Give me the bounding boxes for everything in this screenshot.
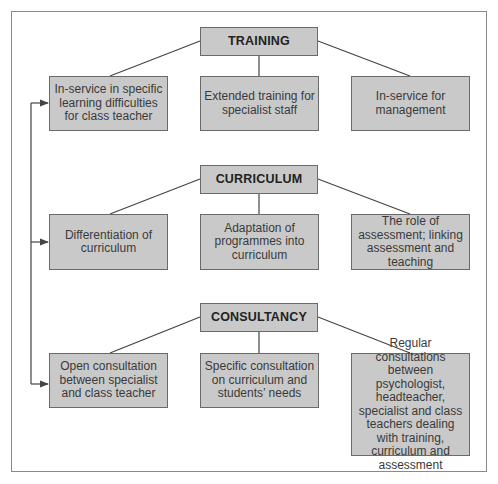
item-label: Extended training for specialist staff bbox=[204, 90, 315, 117]
item-label: Adaptation of programmes into curriculum bbox=[204, 222, 315, 263]
curriculum-item-assessment: The role of assessment; linking assessme… bbox=[351, 214, 470, 270]
item-label: In-service for management bbox=[355, 90, 466, 117]
item-label: Specific consultation on curriculum and … bbox=[204, 360, 315, 401]
consultancy-header-label: CONSULTANCY bbox=[211, 311, 307, 325]
item-label: In-service in specific learning difficul… bbox=[53, 83, 164, 124]
item-label: Regular consultations between psychologi… bbox=[355, 337, 466, 472]
curriculum-item-differentiation: Differentiation of curriculum bbox=[49, 214, 168, 270]
consultancy-item-specific: Specific consultation on curriculum and … bbox=[200, 353, 319, 408]
training-header-label: TRAINING bbox=[228, 35, 290, 49]
item-label: Differentiation of curriculum bbox=[53, 229, 164, 256]
consultancy-header: CONSULTANCY bbox=[200, 303, 318, 332]
item-label: Open consultation between specialist and… bbox=[53, 360, 164, 401]
curriculum-header: CURRICULUM bbox=[200, 165, 318, 194]
training-header: TRAINING bbox=[200, 27, 318, 56]
item-label: The role of assessment; linking assessme… bbox=[355, 215, 466, 269]
consultancy-item-open: Open consultation between specialist and… bbox=[49, 353, 168, 408]
training-item-management: In-service for management bbox=[351, 76, 470, 131]
curriculum-header-label: CURRICULUM bbox=[216, 173, 303, 187]
training-item-class-teacher: In-service in specific learning difficul… bbox=[49, 76, 168, 131]
consultancy-item-regular: Regular consultations between psychologi… bbox=[351, 353, 470, 456]
training-item-specialist-staff: Extended training for specialist staff bbox=[200, 76, 319, 131]
curriculum-item-adaptation: Adaptation of programmes into curriculum bbox=[200, 214, 319, 270]
